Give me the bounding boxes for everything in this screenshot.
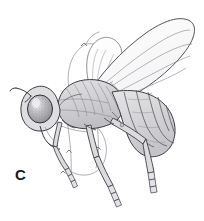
panel-label: C: [15, 167, 26, 182]
compound-eye: [28, 95, 53, 123]
figure-panel: C: [0, 0, 204, 221]
fly-illustration: [0, 0, 204, 221]
eye-highlight: [32, 98, 40, 108]
